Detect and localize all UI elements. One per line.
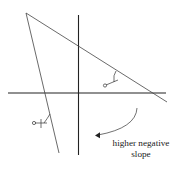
caption-line-2: slope <box>131 149 150 159</box>
angle-marker-shallow <box>103 71 118 87</box>
caption-line-1: higher negative <box>113 138 170 148</box>
angle-marker-steep <box>32 114 50 128</box>
shallow-line <box>26 13 167 102</box>
curved-arrow <box>95 108 137 138</box>
steep-line <box>26 13 59 153</box>
arrowhead-icon <box>95 132 100 138</box>
slope-diagram: higher negative slope <box>0 0 184 172</box>
